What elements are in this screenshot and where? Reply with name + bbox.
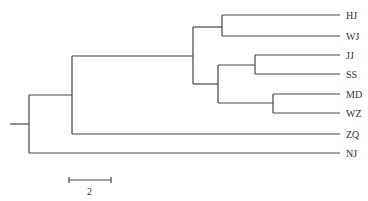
leaf-label-hj: HJ [346,10,357,21]
leaf-label-wz: WZ [346,108,362,119]
leaf-label-ss: SS [346,69,357,80]
leaf-label-zq: ZQ [346,129,360,140]
leaf-label-nj: NJ [346,148,357,159]
leaf-label-wj: WJ [346,31,359,42]
scale-bar-label: 2 [87,186,92,197]
leaf-label-jj: JJ [346,50,354,61]
leaf-label-md: MD [346,89,362,100]
phylogenetic-tree: HJ WJ JJ SS MD WZ ZQ NJ 2 [0,0,368,201]
